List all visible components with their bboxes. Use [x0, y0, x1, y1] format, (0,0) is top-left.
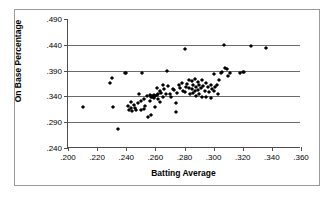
data-point	[115, 127, 119, 131]
x-axis-tick-label: .280	[177, 153, 193, 162]
data-point	[166, 84, 170, 88]
data-point	[228, 71, 232, 75]
data-point	[80, 105, 84, 109]
x-axis-tick	[243, 147, 244, 151]
x-axis-title: Batting Average	[67, 168, 300, 178]
plot-area: .240.290.340.390.440.490.200.220.240.260…	[67, 19, 300, 148]
data-point	[134, 108, 138, 112]
x-axis-tick	[301, 147, 302, 151]
x-axis-tick-label: .340	[264, 153, 280, 162]
gridline	[68, 122, 300, 123]
y-axis-tick-label: .340	[46, 92, 62, 101]
data-point	[212, 72, 216, 76]
y-axis-tick	[64, 45, 68, 46]
data-point	[165, 68, 169, 72]
y-axis-tick	[64, 122, 68, 123]
x-axis-tick-label: .360	[293, 153, 309, 162]
data-point	[143, 104, 147, 108]
data-point	[182, 90, 186, 94]
data-point	[174, 110, 178, 114]
y-axis-tick-label: .290	[46, 118, 62, 127]
y-axis-tick-label: .440	[46, 40, 62, 49]
data-point	[147, 99, 151, 103]
x-axis-tick-label: .240	[118, 153, 134, 162]
data-point	[264, 46, 268, 50]
data-point	[212, 89, 216, 93]
data-point	[169, 95, 173, 99]
x-axis-tick-label: .220	[89, 153, 105, 162]
y-axis-tick	[64, 19, 68, 20]
data-point	[110, 76, 114, 80]
gridline	[68, 96, 300, 97]
data-point	[108, 81, 112, 85]
data-point	[174, 100, 178, 104]
data-point	[162, 87, 166, 91]
gridline	[68, 71, 300, 72]
data-point	[182, 47, 186, 51]
data-point	[175, 91, 179, 95]
data-point	[153, 105, 157, 109]
y-axis-tick-label: .490	[46, 15, 62, 24]
data-point	[216, 92, 220, 96]
x-axis-tick	[68, 147, 69, 151]
x-axis-tick	[155, 147, 156, 151]
data-point	[149, 113, 153, 117]
y-axis-tick	[64, 71, 68, 72]
x-axis-tick-label: .300	[206, 153, 222, 162]
data-point	[209, 96, 213, 100]
x-axis-tick-label: .320	[235, 153, 251, 162]
scatter-chart-figure: .240.290.340.390.440.490.200.220.240.260…	[0, 0, 336, 198]
data-point	[217, 78, 221, 82]
data-point	[111, 105, 115, 109]
y-axis-title: On Base Percentage	[13, 6, 23, 116]
data-point	[200, 78, 204, 82]
data-point	[222, 43, 226, 47]
x-axis-tick	[185, 147, 186, 151]
y-axis-tick	[64, 96, 68, 97]
x-axis-tick-label: .200	[60, 153, 76, 162]
data-point	[214, 82, 218, 86]
x-axis-tick	[97, 147, 98, 151]
y-axis-tick-label: .390	[46, 66, 62, 75]
x-axis-tick	[126, 147, 127, 151]
x-axis-tick-label: .260	[148, 153, 164, 162]
x-axis-tick	[272, 147, 273, 151]
data-point	[242, 70, 246, 74]
data-point	[137, 92, 141, 96]
data-point	[161, 95, 165, 99]
data-point	[158, 99, 162, 103]
y-axis-tick-label: .240	[46, 144, 62, 153]
x-axis-tick	[214, 147, 215, 151]
